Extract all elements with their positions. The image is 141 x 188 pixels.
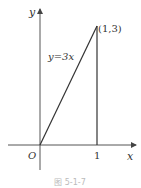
x-axis-label: x (127, 150, 134, 163)
y-axis-label: y (28, 6, 36, 19)
point-label: (1,3) (98, 23, 122, 34)
origin-label: O (28, 150, 36, 161)
line-y-equals-3x (40, 26, 97, 145)
equation-label: y=3x (47, 51, 74, 62)
x-tick-1-label: 1 (94, 150, 100, 161)
figure-caption: 图 5-1-7 (54, 178, 86, 187)
diagram-canvas: y x O 1 y=3x (1,3) 图 5-1-7 (0, 0, 141, 188)
